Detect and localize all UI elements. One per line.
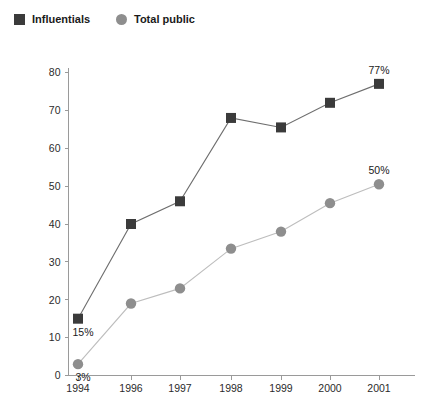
data-point-influentials [276, 122, 286, 132]
chart-point-labels: 15%77%3%50% [72, 64, 389, 383]
data-point-total-public [175, 283, 185, 293]
data-point-total-public [73, 359, 83, 369]
y-tick-label: 80 [49, 66, 61, 78]
chart-plot-area: 01020304050607080 1994199619971998199920… [0, 0, 427, 413]
data-point-total-public [325, 198, 335, 208]
chart-series [73, 79, 384, 369]
y-tick-label: 40 [49, 218, 61, 230]
y-axis: 01020304050607080 [49, 66, 69, 381]
data-point-influentials [126, 219, 136, 229]
y-tick-label: 30 [49, 256, 61, 268]
x-tick-label: 1996 [119, 382, 143, 394]
y-tick-label: 50 [49, 180, 61, 192]
y-tick-label: 70 [49, 104, 61, 116]
data-point-total-public [126, 298, 136, 308]
x-tick-label: 1998 [219, 382, 243, 394]
point-label-total-public: 50% [368, 164, 389, 176]
data-point-total-public [276, 226, 286, 236]
data-point-total-public [226, 243, 236, 253]
data-point-influentials [226, 113, 236, 123]
x-axis: 1994199619971998199920002001 [66, 376, 414, 394]
y-tick-label: 10 [49, 331, 61, 343]
point-label-total-public: 3% [75, 371, 90, 383]
data-point-influentials [325, 98, 335, 108]
data-point-influentials [374, 79, 384, 89]
x-tick-label: 2001 [367, 382, 391, 394]
y-tick-label: 0 [55, 369, 61, 381]
x-tick-label: 1994 [66, 382, 90, 394]
point-label-influentials: 15% [72, 326, 93, 338]
y-tick-label: 60 [49, 142, 61, 154]
data-point-influentials [73, 314, 83, 324]
data-point-influentials [175, 196, 185, 206]
x-tick-label: 1999 [269, 382, 293, 394]
x-tick-label: 1997 [168, 382, 192, 394]
point-label-influentials: 77% [368, 64, 389, 76]
x-tick-label: 2000 [318, 382, 342, 394]
data-point-total-public [374, 179, 384, 189]
line-chart-svg: 01020304050607080 1994199619971998199920… [0, 0, 427, 413]
series-line-total-public [78, 184, 379, 364]
y-tick-label: 20 [49, 294, 61, 306]
chart-page: Influentials Total public 01020304050607… [0, 0, 427, 413]
